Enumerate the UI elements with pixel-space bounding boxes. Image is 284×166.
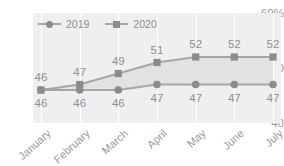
x-axis: JanuaryFebruaryMarchAprilMayJuneJuly xyxy=(0,0,284,166)
line-chart: 60%5040 4647495152525246464647474747 201… xyxy=(0,0,284,166)
